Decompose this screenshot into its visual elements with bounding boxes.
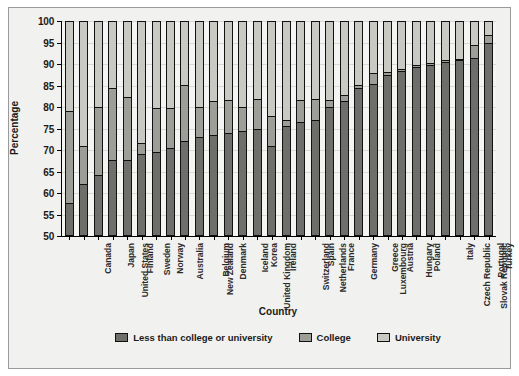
bar-segment-university[interactable] — [398, 22, 405, 69]
bar-group[interactable] — [441, 21, 450, 236]
stacked-bar[interactable] — [354, 21, 363, 236]
bar-segment-less-than-college[interactable] — [181, 141, 188, 235]
bar-segment-university[interactable] — [268, 22, 275, 116]
bar-segment-college[interactable] — [225, 100, 232, 133]
bar-segment-university[interactable] — [167, 22, 174, 108]
bar-segment-less-than-college[interactable] — [196, 137, 203, 235]
bar-segment-less-than-college[interactable] — [341, 101, 348, 235]
bar-segment-university[interactable] — [326, 22, 333, 100]
stacked-bar[interactable] — [484, 21, 493, 236]
stacked-bar[interactable] — [94, 21, 103, 236]
bar-segment-college[interactable] — [239, 107, 246, 130]
bar-group[interactable] — [195, 21, 204, 236]
stacked-bar[interactable] — [180, 21, 189, 236]
bar-segment-college[interactable] — [312, 99, 319, 120]
bar-segment-college[interactable] — [95, 107, 102, 175]
bar-segment-college[interactable] — [181, 85, 188, 141]
bar-segment-less-than-college[interactable] — [326, 107, 333, 235]
bar-segment-less-than-college[interactable] — [66, 203, 73, 235]
bar-segment-less-than-college[interactable] — [427, 65, 434, 235]
bar-segment-university[interactable] — [66, 22, 73, 111]
bar-group[interactable] — [383, 21, 392, 236]
bar-segment-university[interactable] — [225, 22, 232, 100]
bar-segment-less-than-college[interactable] — [471, 58, 478, 235]
bar-segment-university[interactable] — [370, 22, 377, 73]
bar-segment-college[interactable] — [210, 101, 217, 135]
bar-group[interactable] — [484, 21, 493, 236]
stacked-bar[interactable] — [470, 21, 479, 236]
bar-segment-less-than-college[interactable] — [297, 122, 304, 235]
stacked-bar[interactable] — [253, 21, 262, 236]
stacked-bar[interactable] — [412, 21, 421, 236]
bar-segment-less-than-college[interactable] — [456, 60, 463, 235]
bar-group[interactable] — [455, 21, 464, 236]
bar-segment-university[interactable] — [153, 22, 160, 108]
stacked-bar[interactable] — [296, 21, 305, 236]
stacked-bar[interactable] — [340, 21, 349, 236]
bar-group[interactable] — [397, 21, 406, 236]
bar-segment-university[interactable] — [80, 22, 87, 146]
bar-segment-university[interactable] — [413, 22, 420, 65]
bar-segment-university[interactable] — [196, 22, 203, 107]
bar-segment-less-than-college[interactable] — [153, 152, 160, 235]
bar-segment-college[interactable] — [124, 97, 131, 160]
bar-group[interactable] — [311, 21, 320, 236]
bar-segment-less-than-college[interactable] — [268, 146, 275, 235]
bar-group[interactable] — [180, 21, 189, 236]
bar-segment-university[interactable] — [312, 22, 319, 99]
stacked-bar[interactable] — [108, 21, 117, 236]
bar-group[interactable] — [282, 21, 291, 236]
bar-group[interactable] — [470, 21, 479, 236]
bar-segment-college[interactable] — [268, 116, 275, 146]
bar-segment-college[interactable] — [297, 100, 304, 123]
bar-segment-less-than-college[interactable] — [80, 184, 87, 235]
stacked-bar[interactable] — [369, 21, 378, 236]
stacked-bar[interactable] — [152, 21, 161, 236]
bar-segment-less-than-college[interactable] — [413, 67, 420, 235]
legend-item[interactable]: University — [377, 332, 441, 343]
stacked-bar[interactable] — [426, 21, 435, 236]
bar-segment-less-than-college[interactable] — [239, 131, 246, 235]
bar-segment-less-than-college[interactable] — [312, 120, 319, 235]
bar-group[interactable] — [354, 21, 363, 236]
stacked-bar[interactable] — [209, 21, 218, 236]
bar-segment-college[interactable] — [138, 143, 145, 155]
stacked-bar[interactable] — [238, 21, 247, 236]
bar-segment-university[interactable] — [456, 22, 463, 59]
bar-segment-university[interactable] — [283, 22, 290, 120]
bar-group[interactable] — [224, 21, 233, 236]
stacked-bar[interactable] — [195, 21, 204, 236]
bar-group[interactable] — [152, 21, 161, 236]
bar-segment-university[interactable] — [427, 22, 434, 63]
bar-segment-university[interactable] — [442, 22, 449, 60]
bar-segment-university[interactable] — [297, 22, 304, 100]
stacked-bar[interactable] — [383, 21, 392, 236]
bar-group[interactable] — [426, 21, 435, 236]
stacked-bar[interactable] — [79, 21, 88, 236]
bar-segment-college[interactable] — [66, 111, 73, 203]
bar-segment-less-than-college[interactable] — [355, 88, 362, 235]
bar-segment-less-than-college[interactable] — [384, 75, 391, 235]
bar-group[interactable] — [137, 21, 146, 236]
bar-group[interactable] — [65, 21, 74, 236]
bar-segment-university[interactable] — [384, 22, 391, 72]
bar-segment-college[interactable] — [80, 146, 87, 184]
bar-segment-less-than-college[interactable] — [442, 62, 449, 235]
bar-segment-less-than-college[interactable] — [225, 133, 232, 235]
stacked-bar[interactable] — [123, 21, 132, 236]
bar-segment-college[interactable] — [254, 99, 261, 128]
bar-segment-college[interactable] — [471, 45, 478, 58]
bar-segment-less-than-college[interactable] — [124, 160, 131, 235]
bar-group[interactable] — [412, 21, 421, 236]
bar-segment-less-than-college[interactable] — [398, 71, 405, 235]
bar-segment-less-than-college[interactable] — [210, 135, 217, 235]
bar-segment-university[interactable] — [471, 22, 478, 45]
bar-segment-college[interactable] — [326, 100, 333, 108]
bar-segment-college[interactable] — [485, 35, 492, 44]
bar-group[interactable] — [296, 21, 305, 236]
bar-segment-college[interactable] — [167, 108, 174, 148]
stacked-bar[interactable] — [166, 21, 175, 236]
bar-segment-less-than-college[interactable] — [254, 129, 261, 236]
bar-group[interactable] — [253, 21, 262, 236]
bar-group[interactable] — [79, 21, 88, 236]
